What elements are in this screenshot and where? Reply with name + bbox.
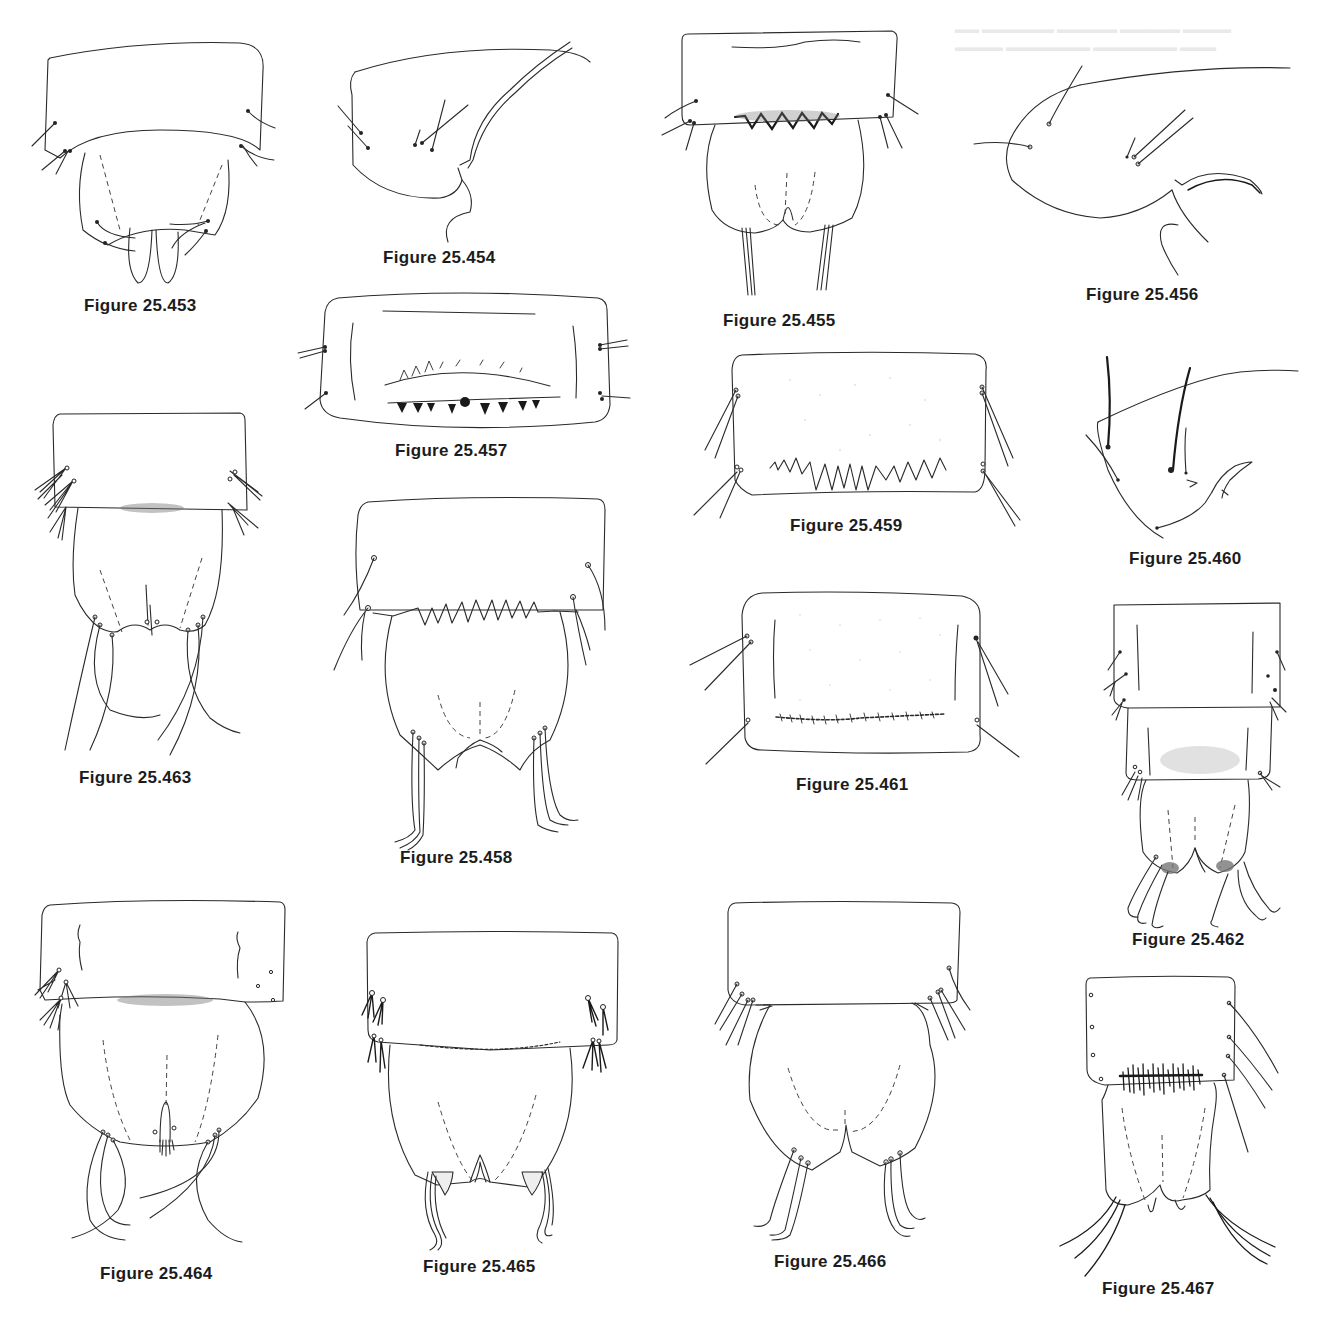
figure-25-455: Figure 25.455 [660, 0, 960, 340]
figure-caption: Figure 25.462 [1132, 930, 1245, 950]
segment-drawing [680, 340, 1020, 540]
segment-drawing [1060, 340, 1319, 580]
segment-drawing [950, 40, 1319, 320]
figure-caption: Figure 25.456 [1086, 285, 1199, 305]
figure-caption: Figure 25.467 [1102, 1279, 1215, 1299]
figure-25-460: Figure 25.460 [1060, 340, 1319, 580]
spine-patch [1120, 1064, 1202, 1095]
segment-drawing [290, 0, 670, 270]
figure-caption: Figure 25.463 [79, 768, 192, 788]
segment-drawing [690, 890, 1010, 1290]
figure-caption: Figure 25.461 [796, 775, 909, 795]
figure-25-458: Figure 25.458 [320, 480, 640, 880]
figure-caption: Figure 25.453 [84, 296, 197, 316]
figure-25-459: Figure 25.459 [680, 340, 1020, 540]
stippling [789, 377, 941, 451]
figure-caption: Figure 25.457 [395, 441, 508, 461]
figure-25-465: Figure 25.465 [340, 890, 660, 1290]
figure-25-467: Figure 25.467 [1020, 960, 1319, 1330]
segment-drawing [280, 260, 660, 460]
figure-25-457: Figure 25.457 [280, 260, 660, 460]
figure-25-456: Figure 25.456 [950, 40, 1319, 320]
segment-drawing [320, 480, 640, 880]
figure-25-464: Figure 25.464 [0, 880, 340, 1300]
stippling [799, 614, 941, 701]
figure-25-463: Figure 25.463 [0, 400, 300, 800]
segment-drawing [1040, 590, 1319, 960]
segment-drawing [340, 890, 660, 1290]
figure-25-454: Figure 25.454 [290, 0, 670, 270]
segment-drawing [0, 880, 340, 1300]
figure-caption: Figure 25.466 [774, 1252, 887, 1272]
figure-caption: Figure 25.460 [1129, 549, 1242, 569]
segment-drawing [0, 400, 300, 800]
figure-caption: Figure 25.459 [790, 516, 903, 536]
segment-drawing [680, 590, 1020, 800]
figure-25-466: Figure 25.466 [690, 890, 1010, 1290]
figure-25-461: Figure 25.461 [680, 590, 1020, 800]
figure-caption: Figure 25.455 [723, 311, 836, 331]
bleed-through-text: ▬▬ ▬▬▬▬▬▬ ▬▬▬▬▬ ▬▬▬▬▬ ▬▬▬▬ [955, 22, 1231, 37]
figure-caption: Figure 25.458 [400, 848, 513, 868]
segment-drawing [660, 0, 960, 340]
figure-caption: Figure 25.465 [423, 1257, 536, 1277]
segment-drawing [1020, 960, 1319, 1330]
figure-25-462: Figure 25.462 [1040, 590, 1319, 960]
tufted-setae [35, 970, 78, 1030]
figure-caption: Figure 25.464 [100, 1264, 213, 1284]
